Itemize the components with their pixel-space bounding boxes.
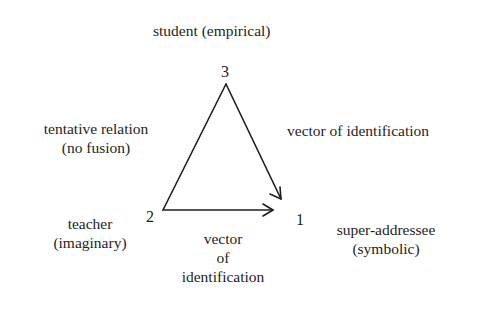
node-2-number: 2	[146, 208, 154, 226]
edge-right-label: vector of identification	[287, 121, 429, 140]
edge-bottom-label: vector of identification	[168, 229, 278, 286]
node-3-number: 3	[221, 63, 229, 81]
node-3-label: student (empirical)	[153, 21, 271, 40]
node-1-number: 1	[296, 211, 304, 229]
node-2-label: teacher (imaginary)	[40, 214, 140, 252]
edge-right-arrow	[226, 84, 281, 199]
edge-left-line	[163, 84, 226, 210]
edge-left-label: tentative relation (no fusion)	[28, 119, 164, 157]
node-1-label: super-addressee (symbolic)	[322, 220, 450, 258]
